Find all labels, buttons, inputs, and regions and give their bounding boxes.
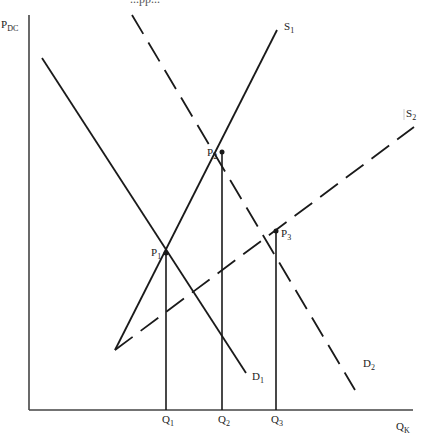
y-axis-label: PDC — [1, 18, 18, 33]
demand-curve-d1 — [42, 58, 246, 373]
x-axis-label: QK — [396, 420, 410, 435]
point-p1 — [164, 251, 169, 256]
label-p3: P3 — [281, 227, 291, 242]
label-p1: P1 — [151, 246, 161, 261]
point-p2 — [220, 150, 225, 155]
cropped-title: ...pp... — [130, 0, 160, 6]
point-p3 — [274, 229, 279, 234]
label-q3: Q3 — [271, 413, 283, 428]
label-d2: D2 — [363, 357, 375, 372]
label-s1: S1 — [284, 20, 294, 35]
label-q1: Q1 — [162, 413, 174, 428]
label-d1: D1 — [252, 370, 264, 385]
supply-demand-diagram: ...pp... PDC QK S1 S2 D1 D2 P1 P2 P3 Q1 … — [0, 0, 430, 443]
label-s2: S2 — [406, 107, 416, 122]
label-q2: Q2 — [218, 413, 230, 428]
supply-curve-s1 — [115, 30, 277, 350]
